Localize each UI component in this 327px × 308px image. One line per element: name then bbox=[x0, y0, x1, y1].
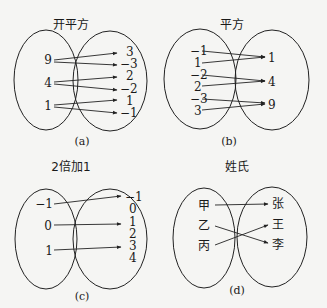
panel-d-codomain-0: 张 bbox=[272, 197, 284, 211]
arrow-icon bbox=[202, 75, 265, 81]
panel-a-caption: (a) bbox=[74, 135, 89, 148]
panel-c-title: 2倍加1 bbox=[51, 159, 90, 174]
panel-c-codomain-5: 4 bbox=[129, 251, 137, 265]
panel-c-domain-1: 0 bbox=[44, 219, 52, 233]
panel-b-title: 平方 bbox=[220, 17, 244, 32]
panel-d-domain-1: 乙 bbox=[198, 219, 210, 233]
panel-d-title: 姓氏 bbox=[225, 160, 249, 174]
panel-d-domain-2: 丙 bbox=[198, 239, 210, 253]
arrow-icon bbox=[215, 226, 268, 243]
panel-d: 姓氏 甲 乙 丙 张 王 李 (d) bbox=[173, 160, 307, 297]
arrow-icon bbox=[54, 62, 117, 65]
arrow-icon bbox=[54, 84, 117, 90]
panel-c-codomain-1: 0 bbox=[129, 202, 137, 216]
arrow-icon bbox=[54, 53, 117, 60]
arrow-icon bbox=[54, 100, 117, 105]
panel-a-domain-1: 4 bbox=[44, 76, 52, 90]
panel-a-title: 开平方 bbox=[53, 17, 89, 32]
panel-b-domain-5: 3 bbox=[194, 104, 202, 118]
panel-d-caption: (d) bbox=[229, 284, 245, 297]
panel-d-codomain-1: 王 bbox=[272, 218, 284, 232]
arrow-icon bbox=[215, 225, 268, 245]
panel-d-domain-0: 甲 bbox=[198, 199, 210, 213]
arrow-icon bbox=[202, 81, 265, 86]
panel-a-codomain-2: 2 bbox=[126, 69, 134, 83]
panel-d-codomain-2: 李 bbox=[272, 237, 284, 252]
panel-c-caption: (c) bbox=[75, 290, 90, 303]
panel-b-codomain-0: 1 bbox=[268, 51, 276, 65]
panel-c: 2倍加1 −1 0 1 −1 0 1 2 3 4 (c) bbox=[15, 159, 147, 303]
arrow-icon bbox=[202, 99, 265, 103]
panel-a-domain-0: 9 bbox=[44, 53, 52, 67]
arrow-icon bbox=[202, 51, 265, 57]
panel-a-codomain-5: −1 bbox=[120, 106, 138, 120]
panel-b-codomain-1: 4 bbox=[268, 75, 276, 89]
mapping-diagrams: 开平方 9 4 1 3 −3 2 −2 1 −1 (a) 平方 −1 1 −2 … bbox=[0, 0, 327, 308]
arrow-icon bbox=[54, 247, 121, 250]
panel-b-codomain-2: 9 bbox=[268, 98, 276, 112]
panel-a: 开平方 9 4 1 3 −3 2 −2 1 −1 (a) bbox=[14, 17, 147, 148]
panel-c-domain-2: 1 bbox=[45, 244, 53, 258]
panel-a-domain-2: 1 bbox=[44, 99, 52, 113]
panel-b-caption: (b) bbox=[221, 135, 237, 148]
panel-b: 平方 −1 1 −2 2 −3 3 1 4 9 (b) bbox=[164, 17, 309, 148]
arrow-icon bbox=[54, 196, 121, 204]
arrow-icon bbox=[54, 224, 121, 225]
arrow-icon bbox=[215, 204, 268, 205]
arrow-icon bbox=[54, 107, 117, 113]
arrow-icon bbox=[54, 77, 117, 82]
panel-c-domain-0: −1 bbox=[35, 197, 53, 211]
arrow-icon bbox=[202, 104, 265, 110]
